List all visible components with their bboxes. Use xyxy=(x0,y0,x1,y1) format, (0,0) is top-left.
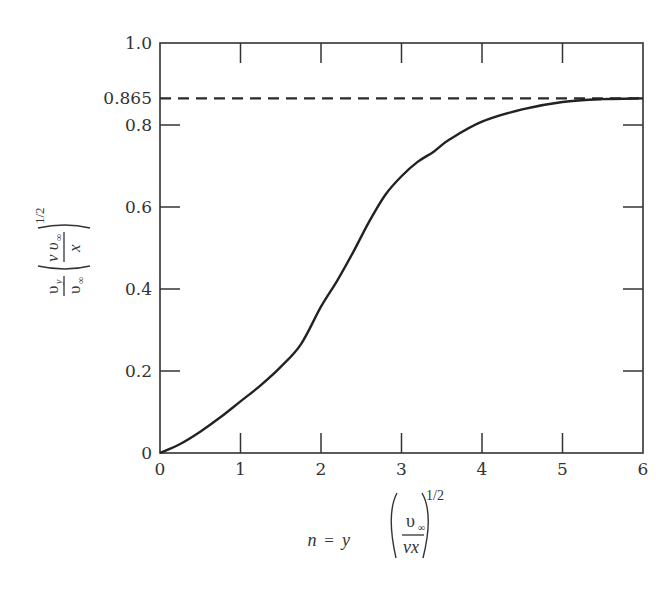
y-tick-label: 0 xyxy=(141,443,152,463)
xlabel-eq: = xyxy=(324,531,334,550)
ylabel-frac1-den-sub: ∞ xyxy=(75,277,86,284)
plot-frame xyxy=(160,43,643,453)
ylabel-frac1-num-sub: y xyxy=(53,279,64,285)
xlabel-lhs: n xyxy=(308,530,317,550)
ylabel-exp: 1/2 xyxy=(32,207,47,224)
x-tick-label: 2 xyxy=(316,459,327,479)
x-tick-label: 3 xyxy=(396,459,407,479)
y-axis-label: υ y υ ∞ ν υ ∞ x 1/2 xyxy=(32,207,90,296)
ylabel-right-paren xyxy=(38,225,90,228)
x-tick-label: 0 xyxy=(155,459,166,479)
xlabel-num: υ xyxy=(406,511,415,531)
ylabel-left-paren xyxy=(38,266,90,269)
tick-labels: 012345600.20.40.60.81.0 xyxy=(125,33,648,479)
ylabel-frac2-num: ν υ xyxy=(43,242,62,262)
xlabel-exp: 1/2 xyxy=(426,488,444,503)
x-tick-label: 5 xyxy=(557,459,568,479)
x-tick-label: 6 xyxy=(638,459,649,479)
x-tick-label: 4 xyxy=(477,459,488,479)
ylabel-frac1-num: υ xyxy=(43,286,62,294)
x-tick-label: 1 xyxy=(235,459,246,479)
y-tick-label: 1.0 xyxy=(125,33,152,53)
xlabel-den: νx xyxy=(403,537,419,557)
x-axis-label: n = y υ ∞ νx 1/2 xyxy=(308,488,444,558)
ylabel-frac2-num-sub: ∞ xyxy=(53,234,64,241)
y-tick-label: 0.6 xyxy=(125,197,152,217)
velocity-profile-curve xyxy=(160,98,643,453)
y-tick-label: 0.8 xyxy=(125,115,152,135)
ylabel-frac2-den: x xyxy=(65,244,84,253)
axis-ticks xyxy=(160,43,643,453)
chart: 012345600.20.40.60.81.0 0.865 n = y υ ∞ … xyxy=(0,0,672,591)
y-tick-label: 0.4 xyxy=(125,279,152,299)
ylabel-frac1-den: υ xyxy=(65,286,84,294)
xlabel-var: y xyxy=(340,530,350,550)
left-paren xyxy=(391,493,397,558)
asymptote-value-label: 0.865 xyxy=(103,88,152,108)
y-tick-label: 0.2 xyxy=(125,361,152,381)
xlabel-num-sub: ∞ xyxy=(418,522,425,533)
